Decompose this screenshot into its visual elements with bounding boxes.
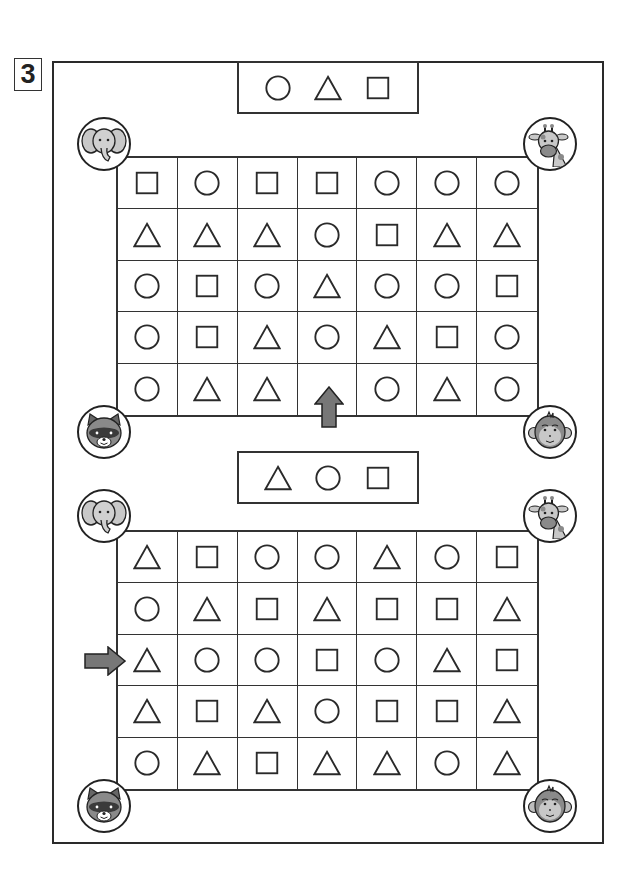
grid-cell-triangle[interactable] <box>477 583 537 634</box>
grid-cell-circle[interactable] <box>417 738 477 789</box>
triangle-icon <box>373 543 401 571</box>
circle-icon <box>493 375 521 403</box>
square-icon <box>493 646 521 674</box>
grid-cell-circle[interactable] <box>238 261 298 312</box>
grid-cell-triangle[interactable] <box>417 635 477 686</box>
grid-cell-triangle[interactable] <box>178 738 238 789</box>
circle-icon <box>253 272 281 300</box>
triangle-icon <box>313 272 341 300</box>
grid-cell-square[interactable] <box>357 209 417 260</box>
grid-cell-triangle[interactable] <box>477 738 537 789</box>
grid-cell-triangle[interactable] <box>298 261 358 312</box>
grid-cell-square[interactable] <box>238 583 298 634</box>
grid-cell-circle[interactable] <box>118 738 178 789</box>
triangle-icon <box>193 221 221 249</box>
grid-cell-circle[interactable] <box>298 312 358 363</box>
elephant-icon <box>77 489 131 543</box>
grid-cell-triangle[interactable] <box>357 738 417 789</box>
grid-cell-circle[interactable] <box>298 532 358 583</box>
grid-cell-circle[interactable] <box>118 583 178 634</box>
triangle-icon <box>433 646 461 674</box>
grid-cell-circle[interactable] <box>178 158 238 209</box>
grid-cell-triangle[interactable] <box>178 364 238 415</box>
grid-cell-circle[interactable] <box>357 158 417 209</box>
grid-cell-circle[interactable] <box>118 261 178 312</box>
grid-cell-triangle[interactable] <box>118 635 178 686</box>
grid-cell-square[interactable] <box>178 261 238 312</box>
grid-cell-square[interactable] <box>238 738 298 789</box>
grid-cell-triangle[interactable] <box>238 312 298 363</box>
triangle-icon <box>253 697 281 725</box>
triangle-icon <box>373 749 401 777</box>
grid-cell-triangle[interactable] <box>118 209 178 260</box>
circle-icon <box>493 169 521 197</box>
grid-cell-triangle[interactable] <box>417 364 477 415</box>
triangle-icon <box>253 375 281 403</box>
circle-icon <box>133 323 161 351</box>
elephant-icon <box>77 117 131 171</box>
grid-cell-triangle[interactable] <box>178 583 238 634</box>
giraffe-icon <box>523 117 577 171</box>
grid-cell-square[interactable] <box>178 532 238 583</box>
circle-icon <box>313 221 341 249</box>
grid-cell-triangle[interactable] <box>118 686 178 737</box>
square-icon <box>364 74 392 102</box>
monkey-icon <box>523 405 577 459</box>
triangle-icon <box>493 749 521 777</box>
grid-cell-triangle[interactable] <box>238 364 298 415</box>
grid-cell-circle[interactable] <box>238 532 298 583</box>
grid-cell-circle[interactable] <box>477 364 537 415</box>
grid-cell-triangle[interactable] <box>238 209 298 260</box>
grid-cell-triangle[interactable] <box>298 738 358 789</box>
grid-cell-circle[interactable] <box>417 158 477 209</box>
grid-cell-triangle[interactable] <box>298 583 358 634</box>
grid-cell-square[interactable] <box>417 686 477 737</box>
grid-cell-triangle[interactable] <box>178 209 238 260</box>
grid-cell-square[interactable] <box>417 583 477 634</box>
grid-cell-triangle[interactable] <box>417 209 477 260</box>
grid-cell-triangle[interactable] <box>477 209 537 260</box>
grid-cell-square[interactable] <box>357 686 417 737</box>
grid-cell-square[interactable] <box>477 635 537 686</box>
triangle-icon <box>433 375 461 403</box>
triangle-icon <box>133 646 161 674</box>
square-icon <box>193 697 221 725</box>
grid-cell-square[interactable] <box>417 312 477 363</box>
grid-cell-circle[interactable] <box>357 635 417 686</box>
square-icon <box>433 697 461 725</box>
grid-cell-triangle[interactable] <box>357 312 417 363</box>
grid-cell-triangle[interactable] <box>477 686 537 737</box>
grid-cell-circle[interactable] <box>357 364 417 415</box>
grid-cell-triangle[interactable] <box>118 532 178 583</box>
grid-cell-circle[interactable] <box>417 261 477 312</box>
grid-cell-circle[interactable] <box>477 158 537 209</box>
grid-cell-square[interactable] <box>178 312 238 363</box>
grid-cell-circle[interactable] <box>238 635 298 686</box>
grid-cell-circle[interactable] <box>118 312 178 363</box>
grid-cell-square[interactable] <box>238 158 298 209</box>
grid-cell-circle[interactable] <box>417 532 477 583</box>
grid-cell-circle[interactable] <box>118 364 178 415</box>
triangle-icon <box>253 221 281 249</box>
square-icon <box>253 169 281 197</box>
grid-cell-square[interactable] <box>178 686 238 737</box>
grid-cell-square[interactable] <box>357 583 417 634</box>
grid-cell-circle[interactable] <box>477 312 537 363</box>
grid-cell-square[interactable] <box>477 532 537 583</box>
circle-icon <box>373 375 401 403</box>
circle-icon <box>433 272 461 300</box>
grid-cell-circle[interactable] <box>357 261 417 312</box>
grid-cell-triangle[interactable] <box>238 686 298 737</box>
circle-icon <box>433 169 461 197</box>
grid-cell-square[interactable] <box>298 635 358 686</box>
grid-cell-circle[interactable] <box>298 686 358 737</box>
grid-cell-circle[interactable] <box>178 635 238 686</box>
circle-icon <box>133 375 161 403</box>
grid-cell-square[interactable] <box>477 261 537 312</box>
circle-icon <box>433 749 461 777</box>
grid-cell-triangle[interactable] <box>357 532 417 583</box>
triangle-icon <box>133 221 161 249</box>
grid-cell-square[interactable] <box>118 158 178 209</box>
grid-cell-square[interactable] <box>298 158 358 209</box>
grid-cell-circle[interactable] <box>298 209 358 260</box>
